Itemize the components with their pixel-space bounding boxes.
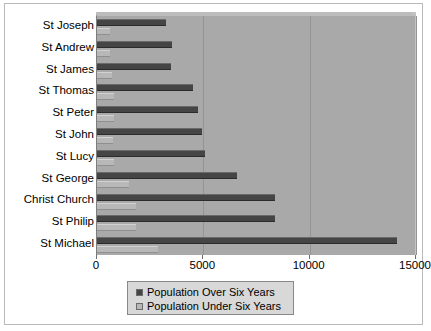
bar-under-six[interactable] [97, 224, 136, 231]
bar-under-six[interactable] [97, 137, 113, 144]
bar-over-six[interactable] [97, 19, 166, 26]
bar-row [97, 39, 415, 61]
legend-item-over-six[interactable]: Population Over Six Years [136, 285, 293, 299]
category-label: St James [6, 63, 94, 76]
bar-under-six[interactable] [97, 115, 114, 122]
bar-row [97, 82, 415, 104]
category-label: St Philip [6, 215, 94, 228]
category-label: St George [6, 172, 94, 185]
bar-row [97, 192, 415, 214]
bar-over-six[interactable] [97, 128, 202, 135]
bar-row [97, 235, 415, 257]
bar-over-six[interactable] [97, 41, 172, 48]
bar-row [97, 213, 415, 235]
bar-under-six[interactable] [97, 28, 110, 35]
legend-label-under-six: Population Under Six Years [147, 300, 281, 312]
plot-area [96, 15, 415, 255]
bar-over-six[interactable] [97, 172, 237, 179]
bar-under-six[interactable] [97, 93, 114, 100]
value-axis: 050001000015000 [96, 255, 416, 275]
bar-under-six[interactable] [97, 181, 129, 188]
bar-over-six[interactable] [97, 106, 198, 113]
bar-under-six[interactable] [97, 203, 136, 210]
category-label: St Michael [6, 237, 94, 250]
bar-row [97, 104, 415, 126]
bar-over-six[interactable] [97, 215, 275, 222]
bar-row [97, 126, 415, 148]
category-label: St Andrew [6, 41, 94, 54]
bar-under-six[interactable] [97, 246, 158, 253]
chart-legend: Population Over Six Years Population Und… [127, 281, 294, 315]
category-label: St Peter [6, 106, 94, 119]
bar-row [97, 17, 415, 39]
bar-row [97, 61, 415, 83]
axis-tick-label: 15000 [399, 259, 431, 271]
category-label: Christ Church [6, 193, 94, 206]
bar-under-six[interactable] [97, 159, 114, 166]
chart-frame: St JosephSt AndrewSt JamesSt ThomasSt Pe… [4, 3, 423, 325]
legend-swatch-under-six [136, 303, 143, 310]
axis-tick-label: 5000 [190, 259, 216, 271]
bar-over-six[interactable] [97, 84, 193, 91]
legend-item-under-six[interactable]: Population Under Six Years [136, 299, 293, 313]
bar-row [97, 148, 415, 170]
category-label: St Lucy [6, 150, 94, 163]
bar-over-six[interactable] [97, 150, 205, 157]
category-label: St Joseph [6, 19, 94, 32]
legend-label-over-six: Population Over Six Years [147, 286, 275, 298]
bar-over-six[interactable] [97, 194, 275, 201]
category-label: St John [6, 128, 94, 141]
axis-tick-label: 10000 [293, 259, 325, 271]
bar-row [97, 170, 415, 192]
bar-under-six[interactable] [97, 50, 110, 57]
legend-swatch-over-six [136, 289, 143, 296]
axis-tick-label: 0 [93, 259, 99, 271]
bar-over-six[interactable] [97, 237, 397, 244]
category-label: St Thomas [6, 84, 94, 97]
bar-under-six[interactable] [97, 72, 112, 79]
category-axis-labels: St JosephSt AndrewSt JamesSt ThomasSt Pe… [5, 15, 94, 255]
gridline [416, 16, 417, 255]
bar-over-six[interactable] [97, 63, 171, 70]
